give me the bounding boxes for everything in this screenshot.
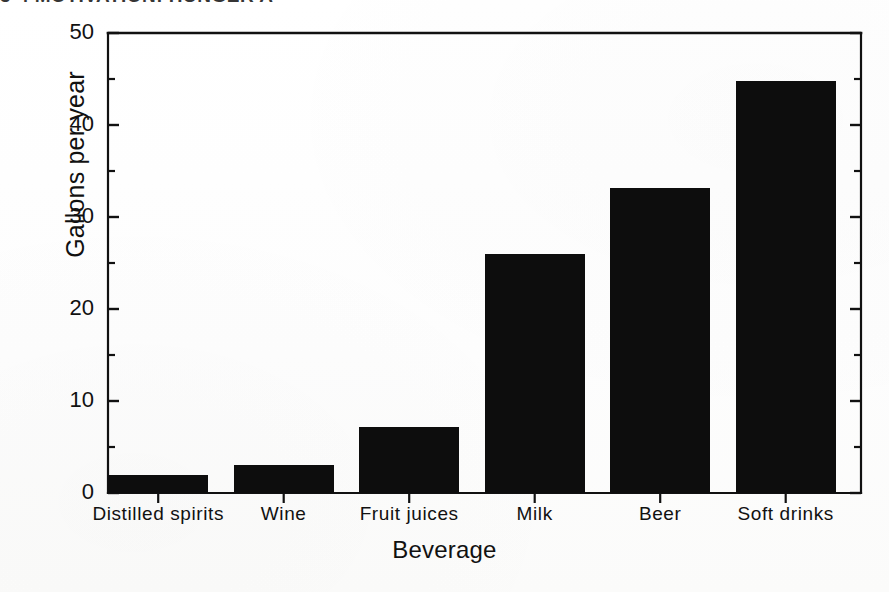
bar xyxy=(610,188,710,493)
x-axis-label: Beverage xyxy=(0,536,889,564)
y-tick-label: 30 xyxy=(46,203,94,229)
y-tick-label: 10 xyxy=(46,387,94,413)
bar xyxy=(485,254,585,493)
x-tick-label: Soft drinks xyxy=(676,503,889,525)
bar xyxy=(108,475,208,493)
y-axis-label: Gallons per year xyxy=(61,15,90,315)
bar xyxy=(234,465,334,493)
bar-chart: Gallons per year 01020304050 Distilled s… xyxy=(0,0,889,592)
y-tick-label: 40 xyxy=(46,111,94,137)
y-tick-label: 0 xyxy=(46,479,94,505)
y-tick-label: 50 xyxy=(46,19,94,45)
bar xyxy=(359,427,459,493)
bar xyxy=(736,81,836,493)
y-tick-label: 20 xyxy=(46,295,94,321)
